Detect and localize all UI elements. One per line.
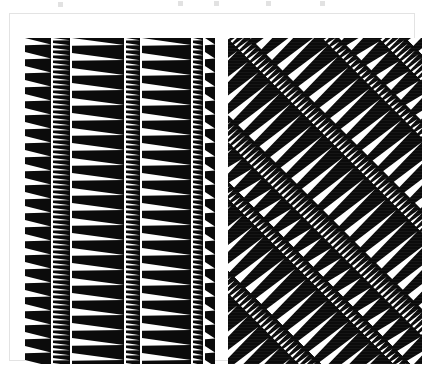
band-4 bbox=[126, 38, 140, 364]
band-7-teeth bbox=[205, 38, 215, 364]
band-5-teeth bbox=[142, 38, 191, 364]
right-panel bbox=[228, 38, 422, 364]
right-panel-rotation-wrapper bbox=[228, 38, 422, 364]
top-scan-artifact bbox=[214, 1, 219, 6]
band-6 bbox=[193, 38, 203, 364]
band-7 bbox=[205, 38, 215, 364]
band-1-teeth bbox=[25, 38, 51, 364]
top-scan-artifact bbox=[266, 1, 271, 6]
band-2-teeth bbox=[53, 38, 70, 364]
band-3-teeth bbox=[72, 38, 124, 364]
plate-frame bbox=[9, 13, 415, 361]
band-6-teeth bbox=[193, 38, 203, 364]
top-scan-artifact bbox=[58, 2, 63, 7]
top-scan-artifact bbox=[320, 1, 325, 6]
top-scan-artifact bbox=[178, 1, 183, 6]
figure-root bbox=[0, 0, 426, 371]
band-4-teeth bbox=[126, 38, 140, 364]
top-scan-artifacts bbox=[0, 0, 426, 12]
band-5 bbox=[142, 38, 191, 364]
band-3 bbox=[72, 38, 124, 364]
band-2 bbox=[53, 38, 70, 364]
band-1 bbox=[25, 38, 51, 364]
left-panel bbox=[25, 38, 215, 364]
